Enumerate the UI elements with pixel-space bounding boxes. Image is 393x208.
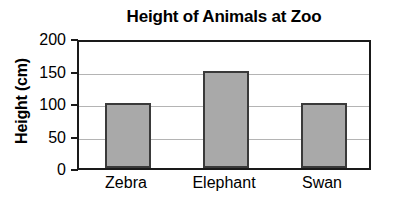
y-axis-tick-label: 0 <box>20 162 66 178</box>
y-axis-tick-mark <box>71 104 78 106</box>
bar-zebra <box>105 103 151 168</box>
y-axis-tick-mark <box>71 72 78 74</box>
bar-elephant <box>203 71 249 169</box>
chart-title: Height of Animals at Zoo <box>77 6 371 28</box>
y-axis-tick-label: 200 <box>20 32 66 48</box>
bar-swan <box>301 103 347 168</box>
x-axis-tick-label: Zebra <box>77 174 175 192</box>
y-axis-tick-mark <box>71 39 78 41</box>
plot-area <box>77 40 371 170</box>
y-axis-tick-label: 150 <box>20 65 66 81</box>
y-axis-tick-label: 50 <box>20 130 66 146</box>
bar-chart-figure: Height of Animals at Zoo Height (cm) 050… <box>0 0 393 208</box>
y-axis-tick-mark <box>71 137 78 139</box>
y-axis-tick-label: 100 <box>20 97 66 113</box>
x-axis-tick-label: Swan <box>273 174 371 192</box>
y-axis-tick-mark <box>71 169 78 171</box>
x-axis-tick-label: Elephant <box>175 174 273 192</box>
